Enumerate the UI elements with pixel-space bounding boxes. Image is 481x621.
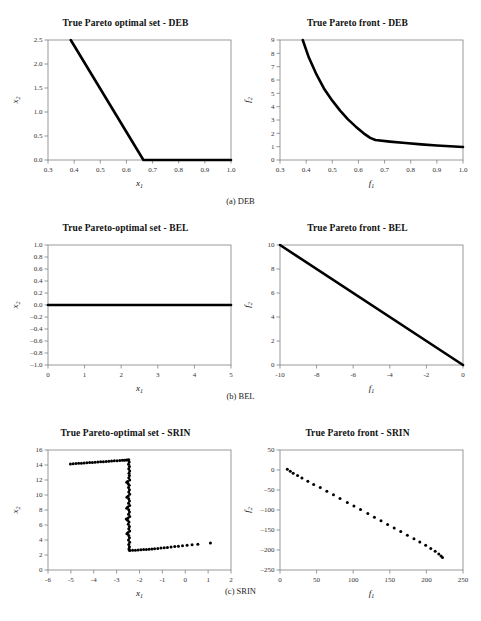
- x-tick-label: 100: [348, 576, 359, 584]
- x-tick-label: 0.3: [44, 166, 53, 174]
- y-axis-label: f2: [242, 97, 253, 103]
- x-tick-label: 4: [193, 371, 197, 379]
- x-tick-label: 0.8: [406, 166, 415, 174]
- y-tick-label: 8: [39, 506, 43, 514]
- data-point: [429, 547, 432, 550]
- x-tick-label: -2: [137, 576, 143, 584]
- y-tick-label: 16: [36, 446, 44, 454]
- chart-title-deb-set: True Pareto optimal set - DEB: [8, 18, 243, 28]
- plot-frame: [48, 40, 231, 160]
- y-tick-label: 2: [271, 337, 275, 345]
- data-point: [332, 493, 335, 496]
- y-tick-label: 1.5: [34, 84, 43, 92]
- data-point: [113, 459, 116, 462]
- x-tick-label: 0.9: [432, 166, 441, 174]
- x-axis-label: x1: [135, 178, 143, 189]
- data-point: [196, 543, 199, 546]
- data-point: [312, 483, 315, 486]
- x-tick-label: 250: [458, 576, 469, 584]
- data-point: [399, 530, 402, 533]
- data-point: [77, 462, 80, 465]
- data-point: [142, 548, 145, 551]
- x-tick-label: -4: [91, 576, 97, 584]
- x-tick-label: 0.4: [70, 166, 79, 174]
- data-point: [107, 460, 110, 463]
- y-tick-label: 6: [271, 76, 275, 84]
- figure-row-deb: True Pareto optimal set - DEB 0.30.40.50…: [0, 14, 481, 209]
- y-tick-label: 4: [271, 103, 275, 111]
- data-point: [386, 523, 389, 526]
- data-point: [85, 461, 88, 464]
- x-tick-label: 0.4: [302, 166, 311, 174]
- y-axis-label: f2: [242, 507, 253, 513]
- data-point: [74, 462, 77, 465]
- chart-svg-srin-front: 050100150200250–250–200–150–100–50050f1f…: [240, 442, 475, 600]
- data-point: [110, 460, 113, 463]
- x-tick-label: 0: [278, 576, 282, 584]
- data-point: [418, 541, 421, 544]
- data-point: [139, 548, 142, 551]
- y-tick-label: 0.0: [34, 301, 43, 309]
- y-tick-label: 0.5: [34, 132, 43, 140]
- x-tick-label: 0.6: [122, 166, 131, 174]
- x-tick-label: 150: [385, 576, 396, 584]
- data-point: [69, 462, 72, 465]
- data-point: [412, 537, 415, 540]
- y-tick-label: 0.6: [34, 265, 43, 273]
- data-point: [166, 546, 169, 549]
- y-tick-label: 0.2: [34, 289, 43, 297]
- data-point: [163, 546, 166, 549]
- data-point: [352, 505, 355, 508]
- x-tick-label: 2: [119, 371, 123, 379]
- x-tick-label: -4: [387, 371, 393, 379]
- x-tick-label: -6: [350, 371, 356, 379]
- x-tick-label: 1: [206, 576, 210, 584]
- chart-title-srin-front: True Pareto front - SRIN: [240, 428, 475, 438]
- chart-svg-srin-set: -6-5-4-3-2-10120246810121416x1x2: [8, 442, 243, 600]
- data-point: [373, 516, 376, 519]
- data-point: [148, 548, 151, 551]
- data-point: [102, 460, 105, 463]
- y-tick-label: 10: [268, 241, 276, 249]
- y-tick-label: 0: [39, 566, 43, 574]
- y-tick-label: 1.0: [34, 108, 43, 116]
- plot-deb-front: 0.30.40.50.60.70.80.91.00123456789f1f2: [240, 32, 475, 190]
- panel-srin-set: True Pareto-optimal set - SRIN -6-5-4-3-…: [8, 424, 243, 602]
- y-tick-label: 2.0: [34, 60, 43, 68]
- x-tick-label: -6: [45, 576, 51, 584]
- y-tick-label: 4: [271, 313, 275, 321]
- svg-text:f2: f2: [242, 97, 253, 103]
- y-tick-label: 10: [36, 491, 44, 499]
- data-point: [105, 460, 108, 463]
- y-tick-label: 0: [271, 361, 275, 369]
- data-point: [441, 556, 444, 559]
- x-tick-label: 0.5: [96, 166, 105, 174]
- data-point: [99, 460, 102, 463]
- data-point: [177, 545, 180, 548]
- data-point: [339, 497, 342, 500]
- chart-title-bel-front: True Pareto front - BEL: [240, 223, 475, 233]
- data-point: [134, 549, 137, 552]
- plot-frame: [280, 40, 463, 160]
- chart-svg-bel-front: -10-8-6-4-200246810f1f2: [240, 237, 475, 395]
- y-tick-label: 2.5: [34, 36, 43, 44]
- figure-row-bel: True Pareto-optimal set - BEL 012345–1.0…: [0, 219, 481, 414]
- x-tick-label: 0.3: [276, 166, 285, 174]
- y-tick-label: 2: [39, 551, 43, 559]
- data-point: [289, 470, 292, 473]
- x-tick-label: 0: [461, 371, 465, 379]
- y-tick-label: 0.8: [34, 253, 43, 261]
- x-tick-label: -2: [423, 371, 429, 379]
- chart-title-srin-set: True Pareto-optimal set - SRIN: [8, 428, 243, 438]
- data-point: [359, 508, 362, 511]
- y-tick-label: 2: [271, 130, 275, 138]
- y-tick-label: 14: [36, 461, 44, 469]
- y-tick-label: 8: [271, 50, 275, 58]
- y-axis-label: x2: [10, 507, 21, 515]
- y-tick-label: –100: [260, 506, 276, 514]
- x-tick-label: 0.8: [174, 166, 183, 174]
- data-point: [424, 544, 427, 547]
- x-tick-label: 0.9: [200, 166, 209, 174]
- data-point: [209, 542, 212, 545]
- x-tick-label: 2: [229, 576, 233, 584]
